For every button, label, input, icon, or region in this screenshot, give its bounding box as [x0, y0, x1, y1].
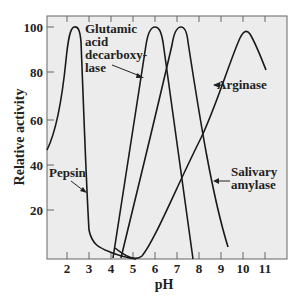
x-tick-11: 11 — [259, 261, 271, 276]
y-tick-20: 20 — [30, 203, 43, 218]
pepsin-label: Pepsin — [49, 165, 87, 180]
x-tick-2: 2 — [64, 261, 71, 276]
glutamic-label-line4: lase — [85, 60, 106, 75]
x-tick-5: 5 — [130, 261, 137, 276]
x-tick-8: 8 — [196, 261, 203, 276]
plot-area — [47, 16, 287, 259]
enzyme-ph-chart: 100 80 60 40 20 2 3 4 5 6 7 8 9 10 11 pH… — [0, 0, 302, 305]
x-tick-3: 3 — [86, 261, 93, 276]
arginase-label: Arginase — [217, 77, 267, 92]
y-tick-80: 80 — [30, 65, 43, 80]
x-tick-9: 9 — [218, 261, 225, 276]
x-tick-4: 4 — [108, 261, 115, 276]
y-tick-40: 40 — [30, 158, 43, 173]
salivary-label-line2: amylase — [231, 177, 276, 192]
x-tick-10: 10 — [237, 261, 250, 276]
y-tick-100: 100 — [24, 20, 44, 35]
y-tick-60: 60 — [30, 113, 43, 128]
y-axis-title: Relative activity — [12, 89, 27, 186]
x-tick-6: 6 — [152, 261, 159, 276]
x-axis-title: pH — [155, 277, 174, 292]
x-tick-7: 7 — [174, 261, 181, 276]
